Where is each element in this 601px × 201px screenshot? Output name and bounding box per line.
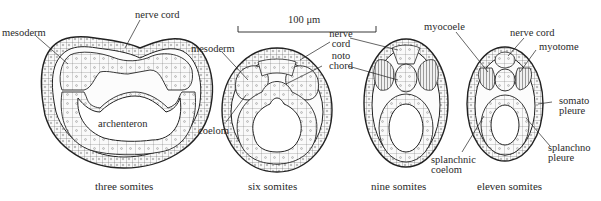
label-nerve-cord: nerve cord: [510, 28, 555, 38]
gut-cavity: [491, 105, 519, 145]
caption-nine-somites: nine somites: [371, 180, 426, 192]
label-myotome: myotome: [539, 42, 579, 52]
label-chord-line: chord: [326, 61, 356, 71]
label-cord-line: cord: [326, 39, 356, 49]
label-notochord: noto chord: [326, 51, 356, 71]
gut-cavity: [389, 104, 423, 152]
panel-eleven-somites: [456, 32, 552, 161]
panel-nine-somites: [348, 38, 448, 167]
label-splanchnopleure: splanchno pleure: [548, 143, 591, 163]
label-somatopleure: somato pleure: [559, 96, 589, 116]
label-nerve-cord: nerve cord: [135, 10, 180, 20]
label-coelom: coelom: [198, 126, 229, 136]
label-pleure-line: pleure: [559, 106, 589, 116]
label-myocoele: myocoele: [424, 22, 465, 32]
scale-bar-label: 100 μm: [288, 15, 320, 25]
caption-three-somites: three somites: [95, 180, 153, 192]
label-nerve-cord: nerve cord: [326, 29, 356, 49]
label-splanchnic-coelom: splanchnic coelom: [431, 155, 476, 175]
label-mesoderm: mesoderm: [2, 28, 46, 38]
label-pleure-line: pleure: [548, 153, 591, 163]
label-coelom-line: coelom: [431, 165, 476, 175]
caption-eleven-somites: eleven somites: [477, 180, 542, 192]
label-mesoderm: mesoderm: [191, 44, 235, 54]
caption-six-somites: six somites: [248, 180, 297, 192]
panel-three-somites: [36, 20, 212, 168]
label-archenteron: archenteron: [98, 119, 148, 129]
